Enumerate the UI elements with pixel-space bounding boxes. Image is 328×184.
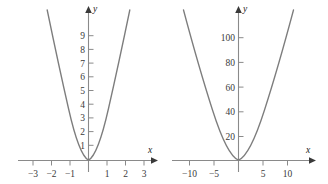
y-axis-arrow-right xyxy=(235,6,242,13)
x-axis-arrow-right xyxy=(309,157,316,164)
y-tick-label: 100 xyxy=(221,33,236,43)
y-tick-label: 1 xyxy=(80,141,85,151)
y-tick-label: 4 xyxy=(80,100,85,110)
y-tick-label: 40 xyxy=(226,107,236,117)
x-tick-label: −1 xyxy=(65,169,75,179)
x-tick-label: −3 xyxy=(28,169,38,179)
x-tick-label: −2 xyxy=(46,169,56,179)
x-axis-label: x xyxy=(147,145,153,155)
y-tick-label: 6 xyxy=(80,72,85,82)
x-tick-label: 3 xyxy=(142,169,147,179)
y-ticks-right xyxy=(239,38,244,137)
chart-panel-right: 20 40 60 80 100 −10 −5 5 10 y x xyxy=(164,0,328,184)
x-tick-label: −10 xyxy=(182,169,197,179)
y-tick-label: 8 xyxy=(80,45,85,55)
y-tick-label: 7 xyxy=(80,59,85,69)
y-tick-label: 3 xyxy=(80,113,85,123)
two-parabola-figure: 1 2 3 4 5 6 7 8 9 −3 −2 −1 1 2 3 y x xyxy=(0,0,328,184)
chart-panel-left: 1 2 3 4 5 6 7 8 9 −3 −2 −1 1 2 3 y x xyxy=(0,0,164,184)
x-tick-label: −5 xyxy=(209,169,219,179)
y-tick-label: 60 xyxy=(226,83,236,93)
x-tick-label: 2 xyxy=(123,169,128,179)
x-tick-label: 1 xyxy=(105,169,110,179)
y-axis-label: y xyxy=(92,4,98,14)
x-axis-arrow-left xyxy=(151,157,158,164)
x-tick-label: 5 xyxy=(261,169,266,179)
y-tick-label: 2 xyxy=(80,127,85,137)
y-ticks-left xyxy=(89,36,94,146)
y-tick-label: 20 xyxy=(226,132,236,142)
y-tick-label: 9 xyxy=(80,31,85,41)
y-tick-label: 80 xyxy=(226,58,236,68)
x-axis-label: x xyxy=(305,145,311,155)
x-tick-label: 10 xyxy=(283,169,293,179)
y-axis-arrow-left xyxy=(85,6,92,13)
y-axis-label: y xyxy=(242,4,248,14)
y-tick-label: 5 xyxy=(80,86,85,96)
